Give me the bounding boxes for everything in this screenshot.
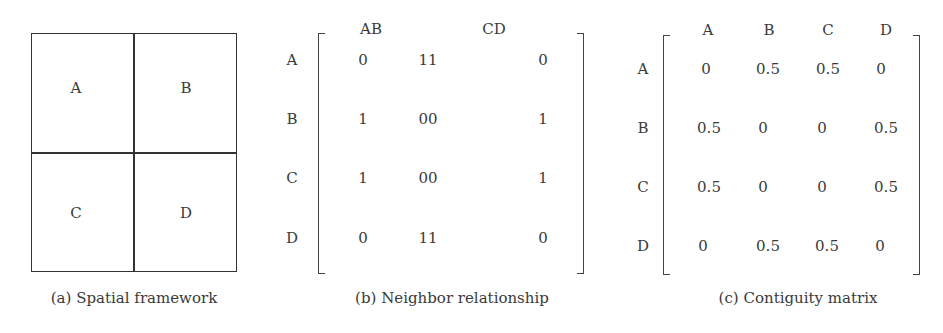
row-label: D	[286, 230, 298, 246]
matrix-cell: 0.5	[756, 238, 780, 254]
matrix-cell: 0.5	[815, 238, 839, 254]
caption-c: (c) Contiguity matrix	[719, 289, 878, 307]
matrix-cell: 0	[698, 238, 708, 254]
matrix-cell: 0.5	[697, 179, 721, 195]
col-header: A	[703, 22, 714, 38]
matrix-cell: 1	[358, 170, 368, 186]
right-bracket	[577, 33, 584, 274]
matrix-cell: 1	[538, 170, 548, 186]
right-bracket	[913, 35, 920, 275]
matrix-cell: 1	[358, 111, 368, 127]
matrix-cell: 11	[418, 52, 437, 68]
matrix-cell: 00	[418, 111, 437, 127]
matrix-cell: 0	[538, 52, 548, 68]
cell-a-label: A	[71, 80, 82, 96]
matrix-cell: 0.5	[697, 120, 721, 136]
cell-b-label: B	[180, 80, 191, 96]
matrix-cell: 0	[817, 179, 827, 195]
row-label: C	[637, 179, 648, 195]
caption-a: (a) Spatial framework	[51, 289, 217, 307]
matrix-cell: 0	[758, 179, 768, 195]
matrix-cell: 0	[758, 120, 768, 136]
matrix-cell: 0	[875, 238, 885, 254]
row-label: B	[286, 111, 297, 127]
matrix-cell: 11	[418, 230, 437, 246]
matrix-cell: 0.5	[874, 120, 898, 136]
matrix-cell: 0.5	[874, 179, 898, 195]
col-header-cd: CD	[482, 21, 506, 37]
col-header-ab: AB	[360, 21, 382, 37]
caption-b: (b) Neighbor relationship	[355, 289, 549, 307]
row-label: A	[287, 52, 298, 68]
matrix-cell: 0	[538, 230, 548, 246]
matrix-cell: 00	[418, 170, 437, 186]
row-label: B	[637, 120, 648, 136]
matrix-cell: 0	[876, 61, 886, 77]
row-label: A	[638, 61, 649, 77]
row-label: D	[637, 238, 649, 254]
col-header: C	[822, 22, 833, 38]
row-label: C	[286, 170, 297, 186]
matrix-cell: 0.5	[816, 61, 840, 77]
cell-c-label: C	[70, 205, 81, 221]
matrix-cell: 0.5	[756, 61, 780, 77]
matrix-cell: 0	[358, 52, 368, 68]
matrix-cell: 0	[701, 61, 711, 77]
col-header: B	[763, 22, 774, 38]
left-bracket	[663, 35, 670, 275]
col-header: D	[880, 22, 892, 38]
matrix-cell: 0	[358, 230, 368, 246]
cell-d-label: D	[180, 205, 192, 221]
matrix-cell: 1	[538, 111, 548, 127]
matrix-cell: 0	[817, 120, 827, 136]
framework-horizontal-divider	[31, 152, 237, 154]
left-bracket	[318, 33, 325, 274]
